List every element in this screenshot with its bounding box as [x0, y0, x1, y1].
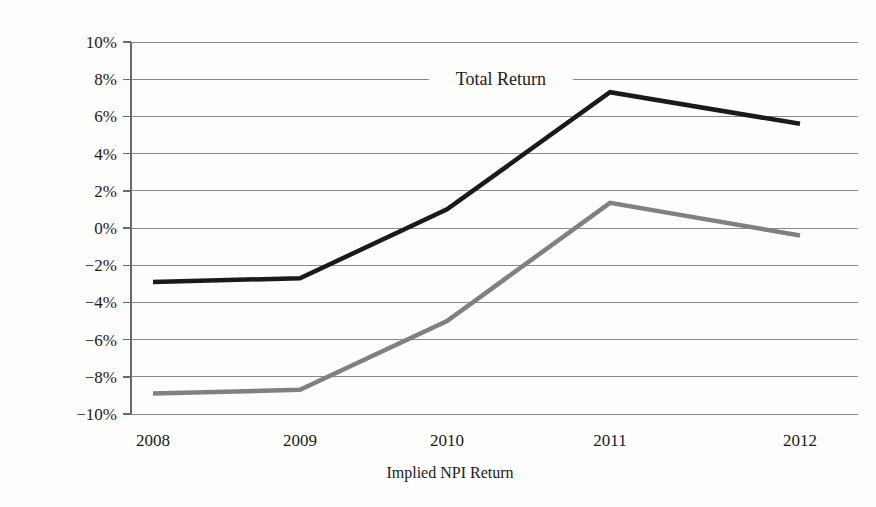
line-chart: 10%8%6%4%2%0%−2%−4%−6%−8%−10% Total Retu…	[0, 0, 876, 507]
x-tick-label: 2012	[783, 431, 817, 450]
y-tick-label: −4%	[85, 293, 117, 312]
x-tick-label: 2009	[283, 431, 317, 450]
y-tick-label: 10%	[86, 33, 117, 52]
y-tick-label: 8%	[94, 70, 117, 89]
y-tick-label: 2%	[94, 182, 117, 201]
y-tick-label: −6%	[85, 331, 117, 350]
annotation-total-return: Total Return	[456, 69, 546, 89]
y-tick-label: −10%	[76, 405, 117, 424]
x-tick-label: 2010	[430, 431, 464, 450]
y-tick-label: 6%	[94, 107, 117, 126]
x-tick-label: 2008	[136, 431, 170, 450]
y-tick-label: 4%	[94, 145, 117, 164]
chart-container: 10%8%6%4%2%0%−2%−4%−6%−8%−10% Total Retu…	[0, 0, 876, 507]
series-annotations: Total Return	[429, 66, 573, 90]
y-tick-label: 0%	[94, 219, 117, 238]
y-tick-label: −2%	[85, 256, 117, 275]
x-axis-title: Implied NPI Return	[386, 464, 513, 482]
x-tick-label: 2011	[593, 431, 626, 450]
y-tick-label: −8%	[85, 368, 117, 387]
